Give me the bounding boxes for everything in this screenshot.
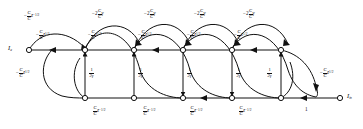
branch-label-top-upper-0: −CCz−1/2 — [24, 11, 39, 21]
node-top-2 — [131, 47, 136, 52]
branch-label-vertical-gain-1: 12γ — [138, 68, 143, 78]
arrow-bot-a — [200, 95, 207, 101]
branch-label-bottom-3: CCz−1/2 — [239, 106, 251, 116]
branch-label-bottom-0: CCz−1/2 — [93, 106, 105, 116]
node-input — [26, 47, 31, 52]
node-bot-5 — [278, 95, 283, 100]
label-input-node: Ia — [8, 44, 12, 52]
branch-label-bottom-1: CCz−1/2 — [143, 106, 155, 116]
node-top-5 — [278, 47, 283, 52]
arc-return-right — [281, 50, 318, 97]
branch-label-top-lower-4: −CCz1/2 — [234, 30, 247, 40]
arrow-top-c — [250, 47, 257, 53]
arrowhead-return-right — [313, 83, 319, 92]
branch-label-top-lower-3: −CCz1/2 — [187, 30, 200, 40]
graph-canvas — [0, 0, 363, 129]
arc-cross-4 — [232, 34, 316, 97]
arrow-bot-b — [300, 95, 307, 101]
node-top-1 — [82, 47, 87, 52]
label-output-node: Iin — [347, 92, 352, 100]
branch-label-left-vertical: −CCz1/2 — [16, 68, 29, 78]
node-bot-1 — [82, 95, 87, 100]
branch-label-vertical-gain-3: 12γ — [236, 68, 241, 78]
node-bot-4 — [229, 95, 234, 100]
arrow-top-b — [152, 47, 159, 53]
branch-label-top-upper-4: −2CCγ — [243, 9, 255, 19]
branch-label-bottom-2: CCz−1/2 — [190, 106, 202, 116]
branch-label-top-lower-2: −CCz1/2 — [138, 30, 151, 40]
node-bot-3 — [180, 95, 185, 100]
node-top-4 — [229, 47, 234, 52]
arc-return-left — [43, 50, 85, 98]
branch-label-top-upper-3: −2CCγ — [194, 9, 206, 19]
branch-label-vertical-gain-2: 12γ — [187, 68, 192, 78]
branch-label-vertical-gain-0: 12γ — [89, 68, 94, 78]
branch-label-vertical-gain-4: 12γ — [267, 68, 272, 78]
node-bot-2 — [131, 95, 136, 100]
branch-label-bottom-unity: 1 — [305, 107, 308, 112]
branch-label-top-upper-2: −2CCγ — [144, 9, 156, 19]
branch-label-top-upper-1: −2CCγ — [92, 9, 104, 19]
node-output — [337, 95, 342, 100]
signal-flow-graph-figure: Ia Iin −CCz−1/2 −2CCγ −2CCγ −2CCγ −2CCγ … — [0, 0, 363, 129]
arc-lower-1 — [74, 58, 85, 98]
branch-label-right-vertical: −CCz1/2 — [320, 68, 333, 78]
branch-label-top-lower-1: −CCz1/2 — [88, 30, 101, 40]
node-top-3 — [180, 47, 185, 52]
branch-label-top-lower-0: −CCz1/2 — [36, 30, 49, 40]
